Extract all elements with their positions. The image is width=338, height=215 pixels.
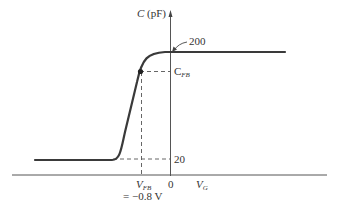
tick-20: 20 xyxy=(174,154,185,165)
y-axis-label: C (pF) xyxy=(137,8,166,19)
x-axis-sub: G xyxy=(203,184,208,192)
cfb-sub: FB xyxy=(181,71,190,79)
flatband-point xyxy=(138,69,143,74)
vfb-value: = −0.8 V xyxy=(123,191,162,202)
x-axis-var: V xyxy=(196,178,203,190)
y-axis-arrow-icon xyxy=(169,10,173,17)
tick-0: 0 xyxy=(168,179,174,190)
annotation-200: 200 xyxy=(189,36,206,47)
x-axis-label: VG xyxy=(196,179,208,192)
vfb-var: V xyxy=(136,178,143,190)
y-axis-unit: (pF) xyxy=(147,7,166,19)
cv-curve xyxy=(35,52,285,160)
cfb-label: CFB xyxy=(174,66,190,79)
y-axis-var: C xyxy=(137,7,144,19)
